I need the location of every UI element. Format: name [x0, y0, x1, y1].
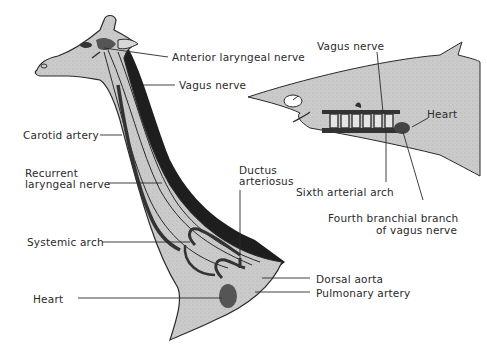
shark-eye: [284, 95, 302, 107]
label-ductus-line2: arteriosus: [239, 175, 294, 187]
label-fourth-branch-line2: of vagus nerve: [376, 224, 457, 236]
label-anterior-laryngeal-nerve: Anterior laryngeal nerve: [172, 51, 305, 63]
label-shark-vagus-nerve: Vagus nerve: [317, 40, 384, 52]
label-recurrent-line2: laryngeal nerve: [25, 178, 110, 190]
label-giraffe-vagus-nerve: Vagus nerve: [179, 79, 246, 91]
giraffe-ear: [118, 39, 138, 49]
label-dorsal-aorta: Dorsal aorta: [316, 273, 383, 285]
label-giraffe-heart: Heart: [33, 293, 63, 305]
label-sixth-arterial-arch: Sixth arterial arch: [296, 186, 394, 198]
label-carotid-artery: Carotid artery: [23, 129, 99, 141]
label-systemic-arch: Systemic arch: [27, 236, 104, 248]
giraffe-eye: [80, 42, 92, 48]
giraffe-heart: [219, 284, 237, 308]
label-shark-heart: Heart: [427, 108, 457, 120]
label-fourth-branch-line1: Fourth branchial branch: [328, 212, 458, 224]
recurrent-laryngeal-nerve-diagram: Anterior laryngeal nerve Vagus nerve Car…: [0, 0, 487, 354]
label-pulmonary-artery: Pulmonary artery: [316, 287, 410, 299]
shark-heart: [394, 122, 410, 134]
